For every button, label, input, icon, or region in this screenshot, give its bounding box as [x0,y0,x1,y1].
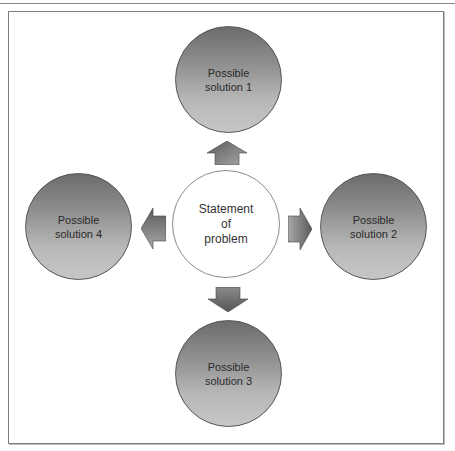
solution-label-3: Possible solution 3 [205,360,252,388]
solution-node-3: Possible solution 3 [175,320,282,427]
solution-label-4: Possible solution 4 [55,213,102,241]
solution-label-2: Possible solution 2 [350,213,397,241]
solution-node-1: Possible solution 1 [175,26,282,133]
solution-node-4: Possible solution 4 [25,173,132,280]
problem-statement-label: Statement of problem [199,202,254,247]
arrow-left-icon [141,208,166,249]
arrow-down-icon [208,287,248,312]
problem-statement-node: Statement of problem [172,170,280,278]
solution-label-1: Possible solution 1 [205,66,252,94]
solution-node-2: Possible solution 2 [320,173,427,280]
arrow-right-icon [288,208,312,250]
arrow-up-icon [207,141,247,165]
page-top-rule [0,3,455,4]
